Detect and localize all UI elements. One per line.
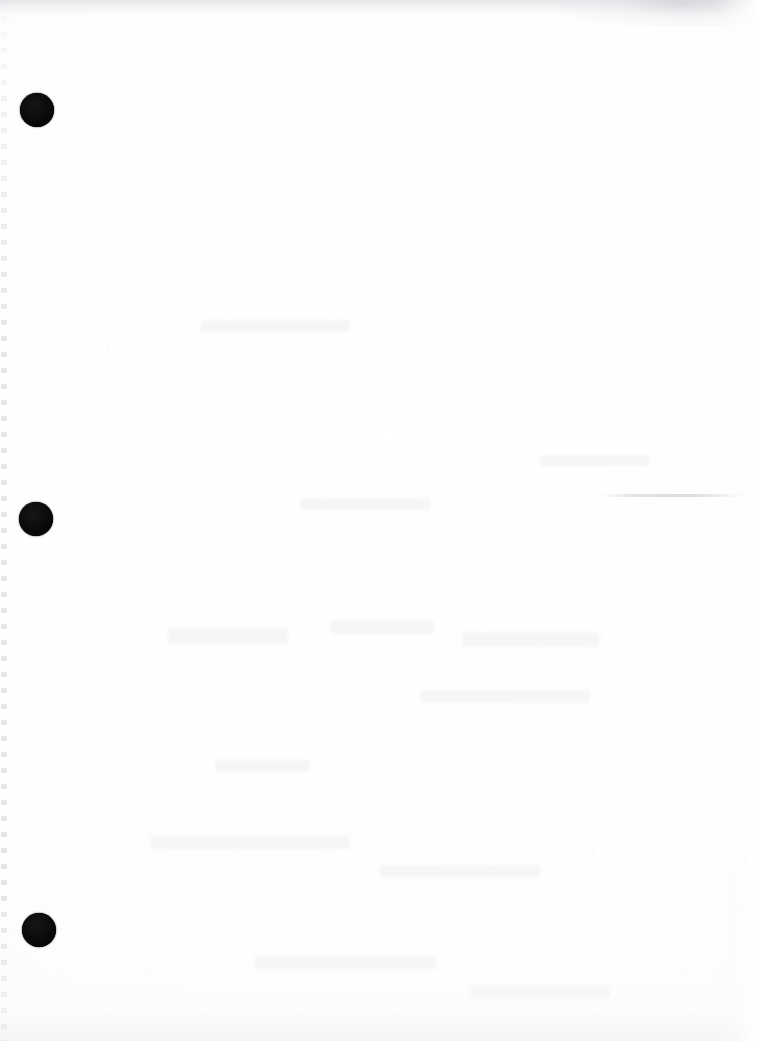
show-through-mark bbox=[330, 620, 434, 634]
punch-hole-middle bbox=[19, 502, 53, 536]
show-through-mark bbox=[150, 835, 350, 849]
punch-hole-interior bbox=[19, 502, 53, 536]
show-through-mark bbox=[168, 628, 288, 644]
right-edge-sheen bbox=[717, 0, 757, 1041]
show-through-mark bbox=[462, 632, 600, 647]
left-edge-dashed-artifact bbox=[1, 0, 7, 1041]
show-through-mark bbox=[255, 955, 435, 970]
punch-hole-bottom bbox=[22, 913, 56, 947]
punch-hole-top bbox=[20, 93, 54, 127]
show-through-mark bbox=[380, 865, 540, 878]
punch-hole-interior bbox=[22, 913, 56, 947]
show-through-mark bbox=[540, 455, 650, 466]
bottom-edge-haze bbox=[0, 977, 757, 1041]
show-through-mark bbox=[300, 498, 430, 510]
punch-hole-interior bbox=[20, 93, 54, 127]
show-through-mark bbox=[200, 320, 350, 332]
paper-surface bbox=[0, 0, 757, 1041]
scanned-page: Scanned blank sheet of paper, no printed… bbox=[0, 0, 757, 1041]
show-through-mark bbox=[215, 760, 310, 772]
show-through-mark bbox=[420, 690, 590, 703]
